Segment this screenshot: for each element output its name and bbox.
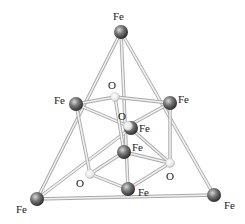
o-atom-o_top	[111, 93, 120, 102]
atom-label-fe_bottom_left: Fe	[16, 203, 27, 215]
o-atom-o_right	[166, 159, 175, 168]
atom-label-fe_bottom_mid: Fe	[138, 186, 149, 198]
bond-fe_bottom_mid-o_right	[128, 163, 170, 189]
o-atom-o_left	[86, 170, 95, 179]
o-atom-o_mid	[124, 122, 133, 131]
fe-atom-fe_left	[69, 97, 83, 111]
fe-oxo-cluster-diagram: FeFeFeFeFeFeFeFeOOOO	[0, 0, 245, 224]
fe-atom-fe_bottom_right	[207, 188, 221, 202]
atom-label-fe_center: Fe	[139, 122, 150, 134]
atom-label-fe_bottom_right: Fe	[224, 199, 235, 211]
fe-atom-fe_bottom_left	[30, 192, 44, 206]
atom-label-fe_top: Fe	[113, 10, 124, 22]
atom-label-o_left: O	[76, 177, 84, 189]
atom-label-fe_right: Fe	[178, 93, 189, 105]
atom-label-o_right: O	[166, 170, 174, 182]
atom-label-o_mid: O	[118, 110, 126, 122]
fe-atom-fe_top	[114, 25, 128, 39]
molecular-structure-svg: FeFeFeFeFeFeFeFeOOOO	[0, 0, 245, 224]
atom-label-o_top: O	[108, 79, 116, 91]
fe-atom-fe_bottom_mid	[121, 182, 135, 196]
fe-atom-fe_right	[163, 96, 177, 110]
fe-atom-fe_inner	[117, 145, 131, 159]
atom-label-fe_inner: Fe	[132, 141, 143, 153]
atom-label-fe_left: Fe	[54, 94, 65, 106]
